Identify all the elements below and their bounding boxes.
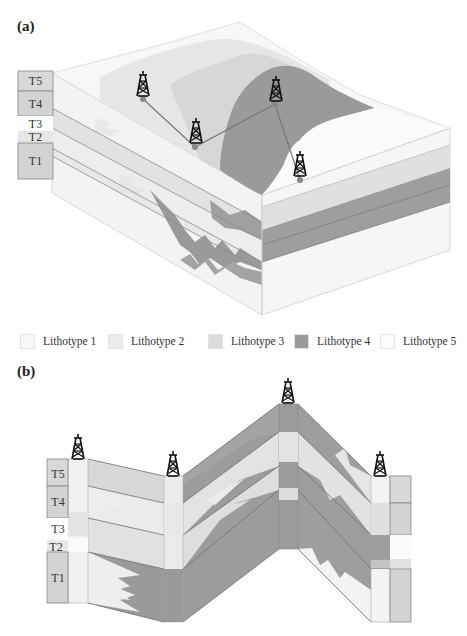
legend-label: Lithotype 4 — [317, 335, 370, 347]
derrick-icon — [282, 378, 294, 403]
unit-label-t2: T2 — [29, 130, 42, 144]
well-log-3 — [279, 404, 298, 549]
unit-label-t5: T5 — [51, 467, 64, 481]
unit-label-t1: T1 — [29, 154, 42, 168]
strat-column-b-right — [390, 476, 411, 622]
unit-label-t1: T1 — [51, 571, 64, 585]
legend-item-lithotype-5: Lithotype 5 — [380, 332, 456, 350]
legend-item-lithotype-4: Lithotype 4 — [294, 332, 370, 350]
derrick-icon — [72, 434, 84, 459]
unit-label-t5: T5 — [29, 74, 42, 88]
legend-swatch — [208, 334, 223, 349]
legend-item-lithotype-1: Lithotype 1 — [20, 332, 96, 350]
strat-column-b-left: T5 T4 T3 T2 T1 — [47, 459, 68, 603]
unit-label-t4: T4 — [29, 97, 42, 111]
strat-column-a: T5 T4 T3 T2 T1 — [18, 71, 53, 179]
unit-label-t3: T3 — [51, 522, 64, 536]
well-log-2 — [164, 476, 183, 622]
lithotype-legend: Lithotype 1 Lithotype 2 Lithotype 3 Lith… — [18, 332, 467, 352]
figure-canvas: T5 T4 T3 T2 T1 — [0, 0, 467, 636]
cross-section: T5 T4 T3 T2 T1 — [47, 378, 411, 622]
derrick-icon — [374, 451, 386, 476]
unit-label-t4: T4 — [51, 495, 64, 509]
legend-swatch — [294, 334, 309, 349]
legend-swatch — [380, 334, 395, 349]
legend-label: Lithotype 2 — [131, 335, 184, 347]
legend-item-lithotype-2: Lithotype 2 — [108, 332, 184, 350]
well-log-1 — [68, 459, 88, 603]
legend-swatch — [108, 334, 123, 349]
legend-item-lithotype-3: Lithotype 3 — [208, 332, 284, 350]
legend-swatch — [20, 334, 35, 349]
unit-label-t2: T2 — [49, 540, 62, 554]
unit-label-t3: T3 — [29, 117, 42, 131]
derrick-icon — [167, 451, 179, 476]
block-diagram: T5 T4 T3 T2 T1 — [18, 22, 450, 315]
well-log-4 — [371, 476, 390, 622]
legend-label: Lithotype 1 — [43, 335, 96, 347]
legend-label: Lithotype 5 — [403, 335, 456, 347]
legend-label: Lithotype 3 — [231, 335, 284, 347]
